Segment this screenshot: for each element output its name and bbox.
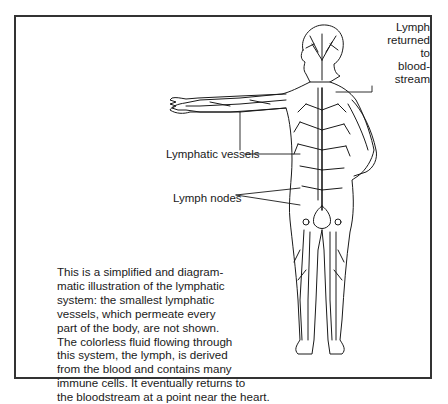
label-lymph-returned: Lymph returned to blood- stream bbox=[372, 21, 430, 86]
caption-line: This is a simplified and diagram- bbox=[57, 265, 317, 279]
label-line: stream bbox=[372, 73, 430, 86]
figure-caption: This is a simplified and diagram- matic … bbox=[57, 265, 317, 404]
caption-line: matic illustration of the lymphatic bbox=[57, 279, 317, 293]
caption-line: The colorless fluid flowing through bbox=[57, 335, 317, 349]
caption-line: vessels, which permeate every bbox=[57, 307, 317, 321]
label-line: to bbox=[372, 47, 430, 60]
label-lymph-nodes: Lymph nodes bbox=[173, 192, 242, 205]
caption-line: immune cells. It eventually returns to bbox=[57, 376, 317, 390]
caption-line: system: the smallest lymphatic bbox=[57, 293, 317, 307]
label-lymphatic-vessels: Lymphatic vessels bbox=[166, 148, 260, 161]
label-line: blood- bbox=[372, 60, 430, 73]
caption-line: the bloodstream at a point near the hear… bbox=[57, 390, 317, 404]
caption-line: this system, the lymph, is derived bbox=[57, 348, 317, 362]
label-line: Lymph bbox=[372, 21, 430, 34]
caption-line: part of the body, are not shown. bbox=[57, 321, 317, 335]
caption-line: from the blood and contains many bbox=[57, 362, 317, 376]
label-line: returned bbox=[372, 34, 430, 47]
